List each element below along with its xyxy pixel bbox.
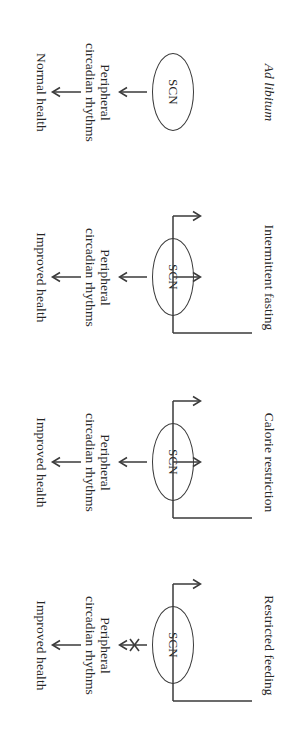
figure-root: Ad libitum SCN Peripheral circadian rhyt…	[0, 0, 299, 739]
arrow-scn-to-rhythms	[120, 273, 148, 282]
panel-arrows	[0, 0, 299, 185]
arrow-rhythms-to-outcome	[53, 641, 82, 650]
arrow-condition-to-scn	[173, 273, 201, 282]
panel-calorie-restriction: Calorie restriction SCN Peripheral circa…	[0, 370, 299, 555]
arrow-rhythms-to-outcome	[53, 273, 82, 282]
arrow-scn-to-rhythms	[120, 88, 148, 97]
arrow-rhythms-to-outcome	[53, 458, 82, 467]
condition-connector-line	[173, 584, 252, 701]
panel-intermittent-fasting: Intermittent fasting SCN Peripheral circ…	[0, 185, 299, 370]
panel-arrows	[0, 553, 299, 738]
panel-arrows	[0, 185, 299, 370]
panel-restricted-feeding: Restricted feeding SCN Peripheral circad…	[0, 553, 299, 738]
arrow-condition-to-rhythms	[173, 212, 201, 221]
arrow-condition-to-scn	[173, 458, 201, 467]
arrow-condition-to-rhythms	[173, 580, 201, 589]
arrow-scn-to-rhythms	[120, 458, 148, 467]
arrow-condition-to-rhythms	[173, 397, 201, 406]
arrow-rhythms-to-outcome	[53, 88, 82, 97]
panel-ad-libitum: Ad libitum SCN Peripheral circadian rhyt…	[0, 0, 299, 185]
condition-connector-line	[173, 216, 252, 333]
panel-arrows	[0, 370, 299, 555]
condition-connector-line	[173, 401, 252, 518]
arrow-scn-to-rhythms-blocked	[120, 639, 148, 651]
